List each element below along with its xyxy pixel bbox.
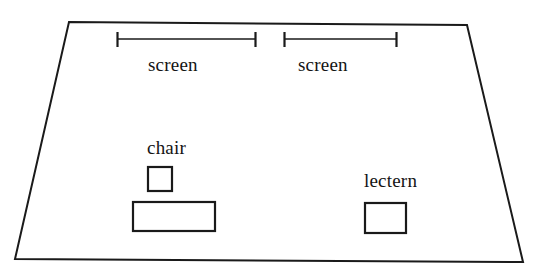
chair-shape <box>148 167 172 191</box>
floor-plan-svg <box>0 0 546 278</box>
lectern-label: lectern <box>364 171 417 190</box>
lectern-shape <box>365 203 406 233</box>
table-shape <box>133 202 215 231</box>
room-outline-shape <box>15 22 523 262</box>
screen-left-label: screen <box>148 55 198 74</box>
screen-right-label: screen <box>298 55 348 74</box>
chair-label: chair <box>147 138 186 157</box>
diagram-canvas: screen screen chair lectern <box>0 0 546 278</box>
